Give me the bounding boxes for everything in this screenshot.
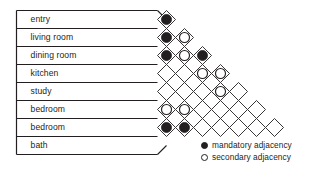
matrix-cell[interactable] <box>212 101 230 119</box>
matrix-cell[interactable] <box>212 119 230 137</box>
legend-item-secondary: secondary adjacency <box>201 151 292 163</box>
secondary-adjacency-marker[interactable] <box>180 33 190 43</box>
secondary-adjacency-marker[interactable] <box>198 69 208 79</box>
matrix-cell[interactable] <box>194 119 212 137</box>
matrix-cell[interactable] <box>158 65 176 83</box>
mandatory-adjacency-marker[interactable] <box>162 15 172 25</box>
room-label-bedroom-1: bedroom <box>31 105 66 114</box>
matrix-cell[interactable] <box>248 101 266 119</box>
mandatory-adjacency-marker[interactable] <box>180 123 190 133</box>
secondary-adjacency-marker[interactable] <box>216 87 226 97</box>
mandatory-adjacency-marker[interactable] <box>162 51 172 61</box>
room-label-entry: entry <box>31 15 51 24</box>
matrix-cell[interactable] <box>176 83 194 101</box>
mandatory-adjacency-marker[interactable] <box>162 33 172 43</box>
adjacency-diagram: entry living room dining room kitchen st… <box>0 0 326 176</box>
secondary-adjacency-marker[interactable] <box>162 105 172 115</box>
room-label-bedroom-2: bedroom <box>31 123 66 132</box>
room-label-bath: bath <box>31 141 48 150</box>
mandatory-adjacency-marker[interactable] <box>198 51 208 61</box>
mandatory-adjacency-marker[interactable] <box>162 123 172 133</box>
secondary-adjacency-marker[interactable] <box>180 105 190 115</box>
matrix-cell[interactable] <box>194 101 212 119</box>
legend: mandatory adjacency secondary adjacency <box>201 139 292 163</box>
room-label-study: study <box>31 87 52 96</box>
matrix-cell[interactable] <box>230 119 248 137</box>
open-circle-icon <box>201 154 208 161</box>
secondary-adjacency-marker[interactable] <box>216 69 226 79</box>
leader-bottom <box>158 146 167 155</box>
filled-circle-icon <box>201 142 208 149</box>
room-label-living-room: living room <box>31 33 74 42</box>
matrix-cell[interactable] <box>194 83 212 101</box>
matrix-cell[interactable] <box>176 65 194 83</box>
matrix-cell[interactable] <box>230 83 248 101</box>
legend-item-mandatory: mandatory adjacency <box>201 139 292 151</box>
matrix-cell[interactable] <box>158 83 176 101</box>
matrix-cell[interactable] <box>266 119 284 137</box>
room-label-dining-room: dining room <box>31 51 77 60</box>
matrix-cell[interactable] <box>230 101 248 119</box>
legend-label-mandatory: mandatory adjacency <box>212 140 292 150</box>
legend-label-secondary: secondary adjacency <box>212 152 291 162</box>
matrix-cell[interactable] <box>248 119 266 137</box>
room-label-kitchen: kitchen <box>31 69 59 78</box>
secondary-adjacency-marker[interactable] <box>180 51 190 61</box>
